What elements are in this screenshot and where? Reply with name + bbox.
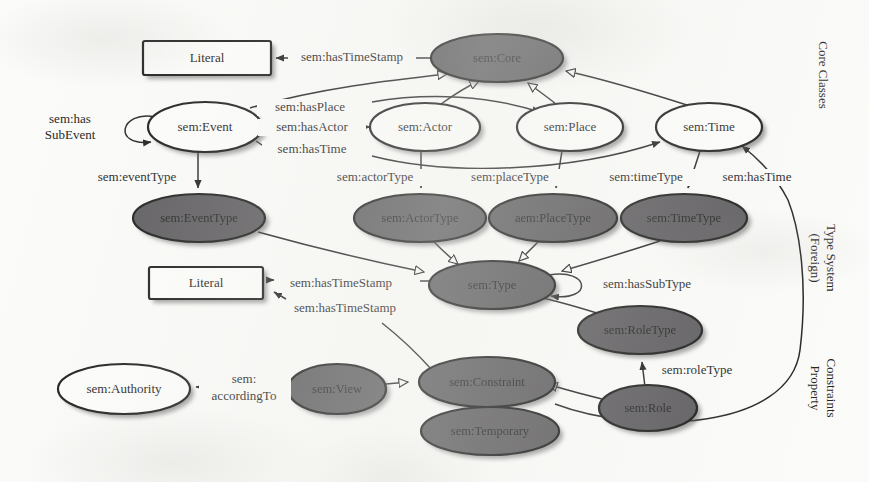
edge-label-constraint-hastimestamp-literal: sem:hasTimeStamp [281, 300, 409, 318]
edge-label-type-hassubtype-type: sem:hasSubType [590, 276, 706, 294]
section-label-layer: Core Classes (Foreign) Type System Prope… [808, 41, 839, 417]
edge-placetype-subclass-type [519, 242, 538, 261]
edge-label-place-placetype: sem:placeType [455, 169, 564, 186]
node-event-label: sem:Event [178, 119, 233, 134]
edge-label-event-hassubevent-event: sem:has SubEvent [23, 111, 117, 143]
node-authority[interactable]: sem:Authority [58, 364, 194, 418]
svg-text:Core Classes: Core Classes [816, 41, 831, 109]
section-label-core-classes: Core Classes [816, 41, 831, 109]
svg-text:sem:actorType: sem:actorType [337, 169, 414, 184]
node-place-type[interactable]: aem:PlaceType [489, 194, 621, 246]
edge-label-type-hastimestamp-literal: sem:hasTimeStamp [277, 275, 405, 293]
svg-text:SubEvent: SubEvent [45, 127, 96, 142]
edge-time-subclass-core [566, 71, 690, 106]
svg-text:sem:placeType: sem:placeType [471, 169, 549, 184]
node-event-type-label: sem:EventType [160, 211, 238, 225]
svg-text:Property: Property [808, 366, 823, 411]
node-constraint-label: sem:Constraint [449, 375, 525, 389]
edge-label-role-roletype: sem:roleType [651, 362, 744, 380]
node-event[interactable]: sem:Event [148, 102, 266, 156]
edge-label-event-eventtype: sem:eventType [82, 169, 192, 186]
edge-label-event-hastime-time: sem:hasTime [262, 141, 363, 158]
node-view-label: sem:View [312, 382, 362, 396]
sem-ontology-diagram: Literal (hasTimeStamp) --> [0, 0, 869, 482]
edge-label-view-accordingto-authority: sem: accordingTo [199, 371, 291, 405]
node-place-label: sem:Place [544, 119, 597, 134]
node-time-type-label: sem:TimeType [647, 211, 722, 225]
node-role-type[interactable]: sem:RoleType [578, 306, 706, 358]
edge-label-core-hastimestamp-literal: sem:hasTimeStamp [288, 49, 416, 67]
svg-text:sem:hasTimeStamp: sem:hasTimeStamp [301, 49, 403, 64]
edge-label-time-timetype: sem:timeType [594, 169, 698, 186]
svg-text:sem:hasTimeStamp: sem:hasTimeStamp [290, 275, 392, 290]
svg-text:Type System: Type System [824, 224, 839, 291]
edge-label-constraint-hastime-time: sem:hasTime [708, 169, 807, 186]
node-actor-label: sem:Actor [398, 119, 453, 134]
svg-text:accordingTo: accordingTo [212, 388, 277, 403]
node-type-label: sem:Type [468, 278, 517, 292]
svg-text:sem:hasTime: sem:hasTime [278, 141, 347, 156]
node-authority-label: sem:Authority [86, 381, 162, 396]
node-literal-mid-label: Literal [189, 275, 224, 290]
node-actor[interactable]: sem:Actor [370, 103, 484, 155]
svg-text:(Foreign): (Foreign) [808, 233, 823, 282]
node-actor-type-label: sem:ActorType [382, 211, 459, 225]
node-constraint[interactable]: sem:Constraint [419, 357, 559, 411]
node-literal-top-label: Literal [190, 50, 225, 65]
svg-text:sem:hasPlace: sem:hasPlace [275, 99, 345, 114]
edge-place-subclass-core [528, 83, 556, 104]
edge-actor-subclass-core [441, 81, 479, 104]
svg-text:Constraints: Constraints [824, 358, 839, 417]
node-role-type-label: sem:RoleType [604, 323, 676, 337]
node-time-label: sem:Time [683, 119, 735, 134]
node-literal-top[interactable]: Literal [143, 41, 275, 79]
section-label-type-system: (Foreign) Type System [808, 224, 839, 291]
svg-text:sem:has: sem:has [49, 111, 91, 126]
edge-role-roletype [642, 362, 645, 387]
svg-text:sem:eventType: sem:eventType [98, 169, 177, 184]
node-type[interactable]: sem:Type [429, 261, 559, 313]
node-actor-type[interactable]: sem:ActorType [354, 194, 490, 246]
edge-label-event-hasplace-place: sem:hasPlace [257, 99, 363, 116]
node-temporary[interactable]: sem:Temporary [421, 407, 563, 459]
svg-text:sem:: sem: [232, 371, 257, 386]
svg-text:sem:timeType: sem:timeType [609, 169, 683, 184]
svg-text:sem:hasTime: sem:hasTime [723, 169, 792, 184]
section-label-property-constraints: Property Constraints [808, 358, 839, 417]
node-time-type[interactable]: sem:TimeType [621, 194, 751, 246]
node-time[interactable]: sem:Time [656, 103, 766, 155]
node-literal-mid[interactable]: Literal [149, 267, 267, 303]
edge-label-event-hasactor-actor: sem:hasActor [258, 119, 366, 136]
node-place-type-label: aem:PlaceType [515, 211, 592, 225]
node-place[interactable]: sem:Place [517, 103, 627, 155]
node-role[interactable]: sem:Role [599, 385, 701, 435]
diagram-canvas: Literal (hasTimeStamp) --> [0, 0, 869, 482]
svg-text:sem:hasActor: sem:hasActor [276, 119, 348, 134]
node-core[interactable]: sem:Core [431, 34, 567, 86]
node-view[interactable]: sem:View [288, 364, 390, 418]
svg-text:sem:hasSubType: sem:hasSubType [603, 276, 691, 291]
edge-view-subclass-constraint [386, 382, 408, 384]
svg-text:sem:roleType: sem:roleType [662, 362, 733, 377]
edge-label-actor-actortype: sem:actorType [322, 169, 428, 186]
node-temporary-label: sem:Temporary [451, 424, 530, 438]
edge-timetype-subclass-type [562, 241, 660, 271]
node-core-label: sem:Core [473, 51, 521, 65]
node-event-type[interactable]: sem:EventType [133, 194, 269, 246]
svg-text:sem:hasTimeStamp: sem:hasTimeStamp [294, 300, 396, 315]
node-role-label: sem:Role [624, 401, 672, 415]
